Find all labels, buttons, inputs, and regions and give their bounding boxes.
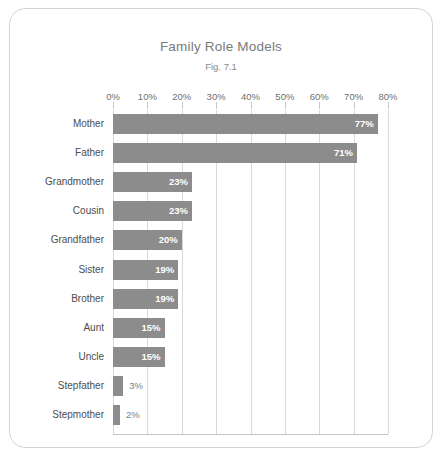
bar-row: Sister19%	[113, 260, 388, 280]
category-label: Uncle	[78, 347, 104, 367]
x-axis-tick	[147, 102, 148, 109]
bar: 71%	[113, 143, 357, 163]
axis-baseline	[113, 434, 388, 435]
x-axis-tick	[319, 102, 320, 109]
bar-value-label: 3%	[129, 376, 143, 396]
category-label: Aunt	[83, 318, 104, 338]
bar: 23%	[113, 201, 192, 221]
category-label: Grandmother	[45, 172, 104, 192]
plot-area: 0%10%20%30%40%50%60%70%80% Mother77%Fath…	[113, 110, 388, 434]
bar-row: Father71%	[113, 143, 388, 163]
category-label: Stepmother	[52, 405, 104, 425]
bar: 77%	[113, 114, 378, 134]
x-axis-tick	[251, 102, 252, 109]
gridline	[388, 110, 389, 434]
bar-row: Grandmother23%	[113, 172, 388, 192]
chart-title: Family Role Models	[10, 39, 432, 54]
bar-value-label: 23%	[169, 172, 188, 192]
category-label: Sister	[78, 260, 104, 280]
bar-row: Uncle15%	[113, 347, 388, 367]
bar-value-label: 71%	[334, 143, 353, 163]
x-axis-tick-label: 80%	[378, 91, 397, 102]
bar: 15%	[113, 347, 165, 367]
x-axis-tick	[354, 102, 355, 109]
bar-value-label: 15%	[142, 318, 161, 338]
category-label: Cousin	[73, 201, 104, 221]
x-axis-tick-label: 50%	[275, 91, 294, 102]
x-axis-tick-label: 10%	[138, 91, 157, 102]
x-axis-tick-label: 0%	[106, 91, 120, 102]
bar-row: Mother77%	[113, 114, 388, 134]
bar-value-label: 20%	[159, 230, 178, 250]
bar-row: Brother19%	[113, 289, 388, 309]
bar-value-label: 19%	[155, 260, 174, 280]
x-axis-tick-label: 70%	[344, 91, 363, 102]
bar-row: Grandfather20%	[113, 230, 388, 250]
bar-row: Cousin23%	[113, 201, 388, 221]
x-axis-tick-label: 40%	[241, 91, 260, 102]
bar-value-label: 15%	[142, 347, 161, 367]
bar-row: Stepfather3%	[113, 376, 388, 396]
category-label: Father	[75, 143, 104, 163]
x-axis-tick	[216, 102, 217, 109]
bar-value-label: 23%	[169, 201, 188, 221]
x-axis-tick-label: 60%	[310, 91, 329, 102]
x-axis-tick-label: 20%	[172, 91, 191, 102]
x-axis-tick	[388, 102, 389, 109]
bar: 19%	[113, 260, 178, 280]
bar: 3%	[113, 376, 123, 396]
category-label: Grandfather	[51, 230, 104, 250]
bar: 19%	[113, 289, 178, 309]
bar: 15%	[113, 318, 165, 338]
bar: 23%	[113, 172, 192, 192]
x-axis-tick-label: 30%	[207, 91, 226, 102]
category-label: Stepfather	[58, 376, 104, 396]
bar: 20%	[113, 230, 182, 250]
category-label: Brother	[71, 289, 104, 309]
bar-value-label: 19%	[155, 289, 174, 309]
x-axis-tick	[113, 102, 114, 109]
bar-value-label: 77%	[355, 114, 374, 134]
x-axis-tick	[182, 102, 183, 109]
chart-figure-number: Fig. 7.1	[10, 61, 432, 72]
bar: 2%	[113, 405, 120, 425]
chart-frame: Family Role Models Fig. 7.1 0%10%20%30%4…	[9, 8, 433, 448]
category-label: Mother	[73, 114, 104, 134]
bar-value-label: 2%	[126, 405, 140, 425]
bar-row: Stepmother2%	[113, 405, 388, 425]
x-axis-tick	[285, 102, 286, 109]
bar-row: Aunt15%	[113, 318, 388, 338]
